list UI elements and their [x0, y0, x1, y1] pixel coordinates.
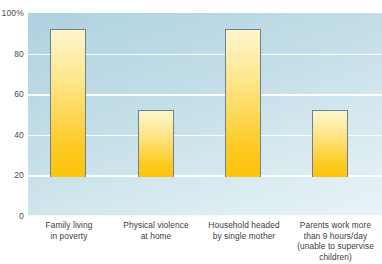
bar-series [28, 13, 382, 177]
x-label-line: at home [113, 231, 199, 242]
x-label-physical-violence-at-home: Physical violence at home [113, 220, 199, 241]
x-label-line: Parents work more [289, 220, 382, 231]
bar-physical-violence-at-home [138, 110, 174, 177]
gridline-0 [28, 215, 382, 217]
x-label-line: Family living [28, 220, 110, 231]
x-label-family-living-in-poverty: Family living in poverty [28, 220, 110, 241]
x-label-line: in poverty [28, 231, 110, 242]
bar-household-headed-by-single-mother [225, 29, 261, 177]
plot-area [28, 13, 382, 216]
y-axis-tick: 60 [14, 89, 24, 99]
x-label-line: Physical violence [113, 220, 199, 231]
bar-parents-work-more-than-9-hours [312, 110, 348, 177]
x-label-line: by single mother [200, 231, 288, 242]
y-axis-tick: 80 [14, 49, 24, 59]
y-axis-tick: 40 [14, 130, 24, 140]
bar-family-living-in-poverty [50, 29, 86, 177]
bar-chart: 100% 80 60 40 20 0 Family living in pove… [0, 0, 382, 168]
x-label-line: children) [289, 252, 382, 263]
x-label-line: than 9 hours/day [289, 231, 382, 242]
x-label-line: (unable to supervise [289, 241, 382, 252]
x-label-line: Household headed [200, 220, 288, 231]
x-label-parents-work-more-than-9-hours: Parents work more than 9 hours/day (unab… [289, 220, 382, 262]
x-label-household-headed-by-single-mother: Household headed by single mother [200, 220, 288, 241]
y-axis-tick: 100% [1, 8, 24, 18]
y-axis: 100% 80 60 40 20 0 [0, 0, 28, 222]
y-axis-tick: 0 [19, 211, 24, 221]
y-axis-tick: 20 [14, 170, 24, 180]
x-axis-labels: Family living in poverty Physical violen… [28, 220, 382, 264]
